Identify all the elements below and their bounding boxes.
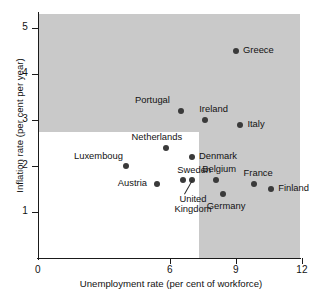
data-point-denmark[interactable]	[189, 154, 195, 160]
y-axis-title: Inflation rate (per cent per year)	[14, 11, 25, 241]
point-label-austria: Austria	[118, 178, 147, 189]
point-label-france: France	[244, 168, 273, 179]
x-tick-label-0: 0	[27, 264, 49, 275]
data-point-sweden[interactable]	[180, 177, 186, 183]
point-label-portugal: Portugal	[135, 95, 170, 106]
x-axis-line	[37, 258, 301, 259]
y-axis-line	[38, 12, 39, 260]
x-tick-label-6: 6	[159, 264, 181, 275]
point-label-denmark: Denmark	[199, 151, 237, 162]
y-tick-3	[32, 120, 38, 121]
data-point-belgium[interactable]	[213, 177, 219, 183]
data-point-luxemboug[interactable]	[123, 163, 129, 169]
y-tick-4	[32, 74, 38, 75]
y-tick-5	[32, 28, 38, 29]
point-label-greece: Greece	[243, 45, 274, 56]
y-tick-2	[32, 166, 38, 167]
data-point-portugal[interactable]	[178, 108, 184, 114]
x-axis-title: Unemployment rate (per cent of workforce…	[38, 278, 304, 289]
point-label-germany: Germany	[207, 201, 246, 212]
data-point-netherlands[interactable]	[163, 145, 169, 151]
point-label-netherlands: Netherlands	[132, 132, 183, 143]
scatter-chart-figure: 123450691215 Unemployment rate (per cent…	[0, 0, 312, 295]
point-label-italy: Italy	[247, 119, 264, 130]
data-point-greece[interactable]	[233, 48, 239, 54]
x-tick-label-9: 9	[225, 264, 247, 275]
point-label-luxemboug: Luxemboug	[74, 151, 123, 162]
point-label-belgium: Belgium	[202, 164, 236, 175]
point-label-ireland: Ireland	[199, 104, 228, 115]
data-point-germany[interactable]	[220, 191, 226, 197]
y-tick-1	[32, 212, 38, 213]
x-tick-label-12: 12	[291, 264, 312, 275]
point-label-finland: Finland	[278, 183, 309, 194]
